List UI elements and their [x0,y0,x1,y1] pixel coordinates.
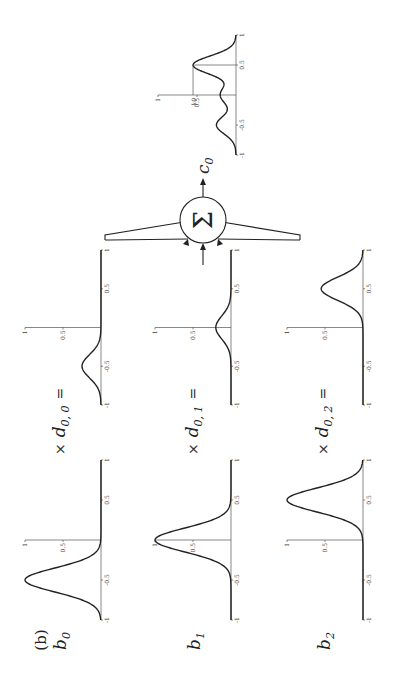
x-tick-label: 1 [103,248,110,252]
svg-text:×d0, 2=: ×d0, 2= [312,388,335,455]
x-tick-label: 1 [365,248,372,252]
y-tick-label: 1 [151,331,158,335]
scaled-plot-0: -1-0.50.510.51 [21,248,110,408]
coef-label-1: ×d0, 1= [182,388,205,455]
scaled-plot-2: -1-0.50.510.51 [283,248,372,408]
svg-text:c0: c0 [193,157,216,174]
basis-label-2: b2 [314,632,337,650]
x-tick-label: -0.5 [238,119,245,131]
x-tick-label: -0.5 [233,574,240,586]
svg-text:b2: b2 [314,632,337,650]
y-tick-label: 1 [21,543,28,547]
x-tick-label: -0.5 [103,574,110,586]
x-tick-label: 0.5 [365,284,372,294]
basis-label-1: b1 [184,632,207,650]
x-tick-label: 0.5 [103,284,110,294]
output-arrow [200,178,206,197]
y-tick-label: 0.5 [321,330,328,340]
x-tick-label: -0.5 [365,360,372,372]
result-plot: -1-0.50.510.51k0 [154,33,245,158]
coef-label-0: ×d0, 0= [49,388,72,455]
x-tick-label: 1 [103,458,110,462]
y-tick-label: 1 [151,543,158,547]
x-tick-label: -1 [365,402,372,408]
output-label: c0 [193,157,216,174]
y-tick-label: 0.5 [59,543,66,553]
y-tick-label: 1 [283,543,290,547]
x-tick-label: 1 [233,458,240,462]
svg-text:b0: b0 [50,632,73,650]
scaled-plot-1: -1-0.50.510.51 [151,248,240,408]
x-tick-label: 0.5 [238,60,245,70]
svg-text:×d0, 1=: ×d0, 1= [182,388,205,455]
x-tick-label: -1 [365,617,372,623]
arrowhead-2 [217,239,223,246]
coef-label-2: ×d0, 2= [312,388,335,455]
x-tick-label: 0.5 [233,284,240,294]
connector-0-path [105,239,188,240]
basis-plot-2: -1-0.50.510.51 [283,458,372,623]
sum-symbol: Σ [188,211,218,229]
y-tick-label: 1 [21,331,28,335]
x-tick-label: 0.5 [233,495,240,505]
x-tick-label: 0.5 [365,495,372,505]
marker-label: k0 [190,98,197,106]
x-tick-label: 0.5 [103,495,110,505]
y-tick-label: 1 [283,331,290,335]
basis-plot-0: -1-0.50.510.51 [21,458,110,623]
connector-0 [105,222,184,240]
x-tick-label: -1 [233,617,240,623]
svg-text:b1: b1 [184,632,207,650]
arrowhead-0 [183,239,189,246]
basis-label-0: b0 [50,632,73,650]
svg-text:×d0, 0=: ×d0, 0= [49,388,72,455]
x-tick-label: -0.5 [103,360,110,372]
y-tick-label: 0.5 [321,543,328,553]
diagram: (b) b0 b1 b2 ×d0, 0= ×d0, 1= ×d0, 2= -1-… [0,0,402,680]
sum-node: Σ [180,197,226,243]
x-tick-label: -1 [103,402,110,408]
connector-2-path [218,239,300,240]
x-tick-label: -1 [238,152,245,158]
x-tick-label: 1 [238,33,245,37]
y-tick-label: 0.5 [189,543,196,553]
panel-label: (b) [32,629,50,650]
y-tick-label: 0.5 [59,330,66,340]
x-tick-label: -1 [233,402,240,408]
x-tick-label: -0.5 [233,360,240,372]
x-tick-label: 1 [233,248,240,252]
x-tick-label: -0.5 [365,574,372,586]
y-tick-label: 0.5 [189,330,196,340]
y-tick-label: 1 [154,98,161,102]
x-tick-label: -1 [103,617,110,623]
basis-plot-1: -1-0.50.510.51 [151,458,240,623]
x-tick-label: 1 [365,458,372,462]
connector-2 [222,222,300,240]
